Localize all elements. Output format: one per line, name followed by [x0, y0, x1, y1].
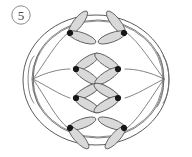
spindle-fiber-left-3	[33, 79, 70, 98]
spindle-fiber-right-3	[125, 79, 164, 98]
chromatid-left-1	[59, 7, 102, 55]
centromere	[73, 95, 79, 101]
step-number-badge: 5	[12, 6, 30, 24]
centromere	[115, 66, 121, 72]
chromatid-right-4	[92, 107, 134, 153]
chromatid-right-1	[92, 7, 135, 55]
cell-division-diagram: 5	[0, 0, 192, 157]
centromere	[73, 66, 79, 72]
figure-root: 5	[0, 0, 192, 157]
chromatid-right-3	[92, 80, 122, 115]
chromatid-right-2	[92, 50, 121, 88]
spindle-fiber-left-4	[33, 79, 68, 128]
step-number-label: 5	[18, 8, 25, 23]
centromere	[115, 95, 121, 101]
